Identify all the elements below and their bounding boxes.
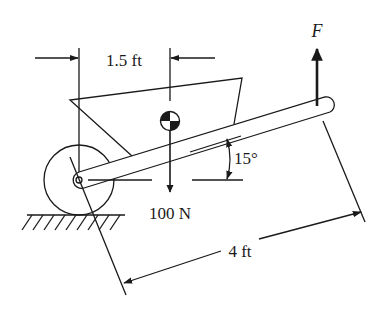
angle-label: 15°: [234, 149, 258, 168]
handle-length-label: 4 ft: [228, 242, 251, 261]
angle-arc: [227, 139, 230, 179]
dimension-arrow-left-4ft: [124, 251, 221, 283]
weight-label: 100 N: [149, 204, 191, 223]
handle: [73, 97, 334, 188]
center-of-gravity-symbol: [161, 112, 180, 131]
dimension-arrow-right-4ft: [259, 212, 361, 239]
right-extension-line-4ft: [323, 121, 365, 222]
force-label: F: [311, 21, 324, 41]
wheelbarrow-diagram: 1.5 ft F 100 N 15° 4 ft: [0, 0, 387, 311]
top-dimension-label: 1.5 ft: [106, 51, 142, 70]
ground-hatching: [22, 215, 125, 230]
